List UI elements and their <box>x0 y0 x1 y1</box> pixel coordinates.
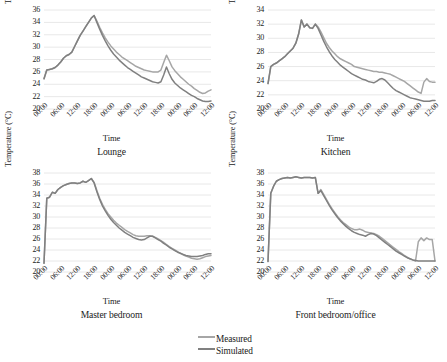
panel-title-kitchen: Kitchen <box>224 146 447 157</box>
y-tick-label: 30 <box>246 213 264 221</box>
y-tick-label: 36 <box>22 6 40 14</box>
y-tick-label: 28 <box>22 56 40 64</box>
y-tick-label: 28 <box>246 48 264 56</box>
y-tick-label: 36 <box>246 180 264 188</box>
y-tick-label: 26 <box>246 235 264 243</box>
y-tick-label: 32 <box>246 20 264 28</box>
y-tick-label: 30 <box>246 34 264 42</box>
chart-legend: Measured Simulated <box>198 331 318 357</box>
y-tick-label: 22 <box>246 91 264 99</box>
y-tick-label: 22 <box>246 257 264 265</box>
y-tick-label: 34 <box>246 191 264 199</box>
y-axis-label-lounge: Temperature (°C) <box>2 0 16 28</box>
y-tick-label: 26 <box>22 68 40 76</box>
x-axis-label-kitchen: Time <box>224 133 447 143</box>
y-tick-label: 34 <box>22 18 40 26</box>
series-line-simulated <box>268 20 435 101</box>
y-tick-label: 26 <box>246 63 264 71</box>
chart-panel-front-bedroom-office: Temperature (°C) Time Front bedroom/offi… <box>224 163 447 326</box>
chart-panel-master-bedroom: Temperature (°C) Time Master bedroom 202… <box>0 163 223 326</box>
y-tick-label: 34 <box>246 6 264 14</box>
figure-container: Temperature (°C) Time Lounge 20222426283… <box>0 0 447 362</box>
series-line-simulated <box>44 16 211 102</box>
x-axis-label-master-bedroom: Time <box>0 296 223 306</box>
y-axis-label-front-bedroom-office: Temperature (°C) <box>226 87 240 191</box>
y-tick-label: 32 <box>22 202 40 210</box>
y-tick-label: 30 <box>22 43 40 51</box>
y-tick-label: 28 <box>22 224 40 232</box>
y-tick-label: 24 <box>246 246 264 254</box>
y-tick-label: 30 <box>22 213 40 221</box>
y-tick-label: 24 <box>22 80 40 88</box>
legend-item-measured: Measured <box>198 331 318 343</box>
panel-title-front-bedroom-office: Front bedroom/office <box>224 309 447 320</box>
y-tick-label: 26 <box>22 235 40 243</box>
y-tick-label: 38 <box>246 169 264 177</box>
y-tick-label: 22 <box>22 257 40 265</box>
y-axis-label-master-bedroom: Temperature (°C) <box>2 87 16 191</box>
chart-panel-kitchen: Temperature (°C) Time Kitchen 2022242628… <box>224 0 447 163</box>
legend-label-simulated: Simulated <box>216 346 253 356</box>
series-line-measured <box>268 177 435 262</box>
series-line-measured <box>268 20 435 94</box>
y-tick-label: 36 <box>22 180 40 188</box>
legend-swatch-simulated <box>198 348 215 350</box>
y-axis-label-kitchen: Temperature (°C) <box>226 0 240 28</box>
x-axis-label-lounge: Time <box>0 133 223 143</box>
y-tick-label: 32 <box>246 202 264 210</box>
legend-item-simulated: Simulated <box>198 343 318 355</box>
y-tick-label: 34 <box>22 191 40 199</box>
legend-swatch-measured <box>198 336 215 338</box>
series-line-simulated <box>268 177 435 262</box>
panel-title-lounge: Lounge <box>0 146 223 157</box>
y-tick-label: 28 <box>246 224 264 232</box>
y-tick-label: 22 <box>22 93 40 101</box>
y-tick-label: 24 <box>246 77 264 85</box>
y-tick-label: 32 <box>22 31 40 39</box>
y-tick-label: 24 <box>22 246 40 254</box>
x-axis-label-front-bedroom-office: Time <box>224 296 447 306</box>
chart-panel-lounge: Temperature (°C) Time Lounge 20222426283… <box>0 0 223 163</box>
y-tick-label: 38 <box>22 169 40 177</box>
panel-title-master-bedroom: Master bedroom <box>0 309 223 320</box>
